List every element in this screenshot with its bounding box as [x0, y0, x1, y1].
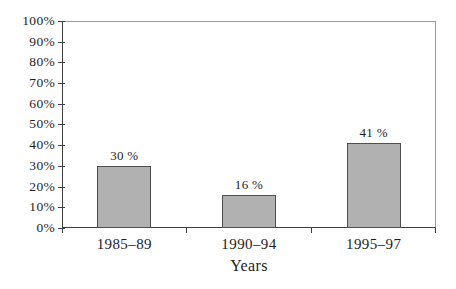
y-axis-tick-labels: 100% 90% 80% 70% 60% 50% 40% 30% 20% 10%… [0, 14, 55, 235]
bar-value-label: 30 % [110, 149, 138, 162]
x-axis-tick-marks [62, 228, 436, 233]
bar-value-label: 41 % [360, 126, 388, 139]
x-tick-mark [186, 228, 187, 233]
bar-group: 41 % [311, 21, 436, 228]
bar [222, 195, 276, 228]
x-axis-title: Years [62, 257, 436, 274]
y-tick-label: 50% [29, 117, 55, 131]
bars-group: 30 % 16 % 41 % [62, 21, 436, 228]
x-tick-label: 1985–89 [62, 236, 187, 252]
y-tick-label: 10% [29, 200, 55, 214]
x-tick-mark [435, 228, 436, 233]
bar-chart: 100% 90% 80% 70% 60% 50% 40% 30% 20% 10%… [0, 0, 456, 289]
y-tick-label: 0% [36, 221, 55, 235]
y-tick-label: 70% [29, 76, 55, 90]
y-tick-label: 60% [29, 97, 55, 111]
y-tick-label: 100% [22, 14, 55, 28]
y-tick-label: 40% [29, 138, 55, 152]
bar-group: 30 % [62, 21, 187, 228]
y-tick-label: 80% [29, 55, 55, 69]
bar [97, 166, 151, 228]
bar [347, 143, 401, 228]
x-tick-mark [311, 228, 312, 233]
y-tick-label: 20% [29, 180, 55, 194]
bar-group: 16 % [187, 21, 312, 228]
y-tick-label: 30% [29, 159, 55, 173]
x-tick-label: 1990–94 [187, 236, 312, 252]
x-axis-tick-labels: 1985–89 1990–94 1995–97 [62, 236, 436, 252]
y-tick-label: 90% [29, 35, 55, 49]
x-tick-label: 1995–97 [311, 236, 436, 252]
x-tick-mark [62, 228, 63, 233]
bar-value-label: 16 % [235, 178, 263, 191]
